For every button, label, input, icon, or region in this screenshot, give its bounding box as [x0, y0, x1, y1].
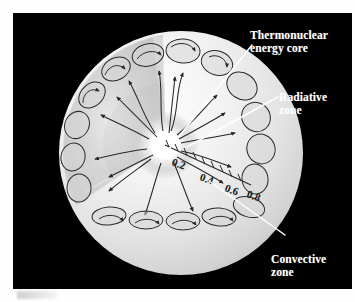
- radiative-zone-label: Radiative zone: [279, 91, 327, 116]
- convective-label-line1: Convective: [271, 253, 326, 266]
- radiative-label-line2: zone: [279, 104, 327, 117]
- thermonuclear-label-line2: energy core: [250, 42, 328, 55]
- solar-interior-figure: 0.2 0.4 0.6 0.8 Thermonuclear energy cor…: [0, 0, 355, 302]
- radiative-label-line1: Radiative: [279, 91, 327, 104]
- figure-panel: 0.2 0.4 0.6 0.8 Thermonuclear energy cor…: [13, 13, 352, 289]
- figure-caption-smudge: [17, 291, 57, 299]
- thermonuclear-label-line1: Thermonuclear: [250, 29, 328, 42]
- convective-label-line2: zone: [271, 266, 326, 279]
- convective-zone-label: Convective zone: [271, 253, 326, 278]
- solar-diagram-svg: 0.2 0.4 0.6 0.8: [13, 13, 352, 289]
- thermonuclear-energy-core-label: Thermonuclear energy core: [250, 29, 328, 54]
